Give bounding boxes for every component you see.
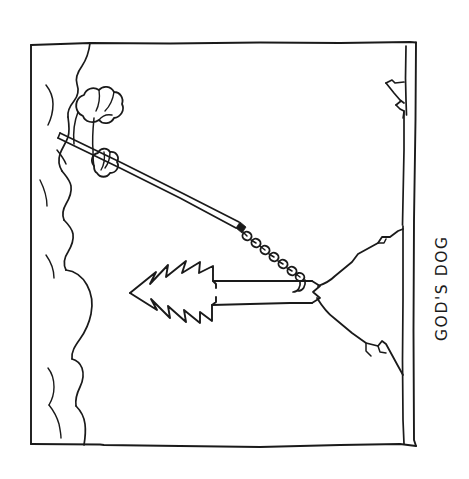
cartoon-canvas: GOD'S DOG (0, 0, 469, 479)
caption-text: GOD'S DOG (433, 235, 451, 341)
caption: GOD'S DOG (433, 235, 451, 341)
mountain-range (317, 229, 403, 375)
leash (58, 133, 239, 228)
cartoon-drawing: GOD'S DOG (0, 0, 469, 479)
divine-hand (74, 87, 123, 177)
upper-peak (386, 80, 404, 118)
